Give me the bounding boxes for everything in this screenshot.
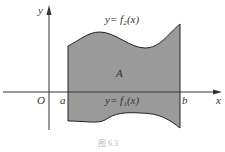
lower-curve-label: y= f₁(x)	[105, 95, 139, 106]
x-axis-label: x	[216, 95, 221, 106]
origin-label: O	[37, 95, 45, 106]
bound-b-label: b	[182, 95, 188, 106]
upper-curve-label: y= f₂(x)	[105, 14, 139, 25]
figure-caption: 图 6.3	[98, 140, 118, 148]
bound-a-label: a	[60, 95, 66, 106]
shaded-region-A	[68, 24, 180, 128]
y-axis-arrow-icon	[47, 5, 52, 15]
y-axis-label: y	[38, 5, 43, 16]
region-label: A	[116, 68, 123, 79]
